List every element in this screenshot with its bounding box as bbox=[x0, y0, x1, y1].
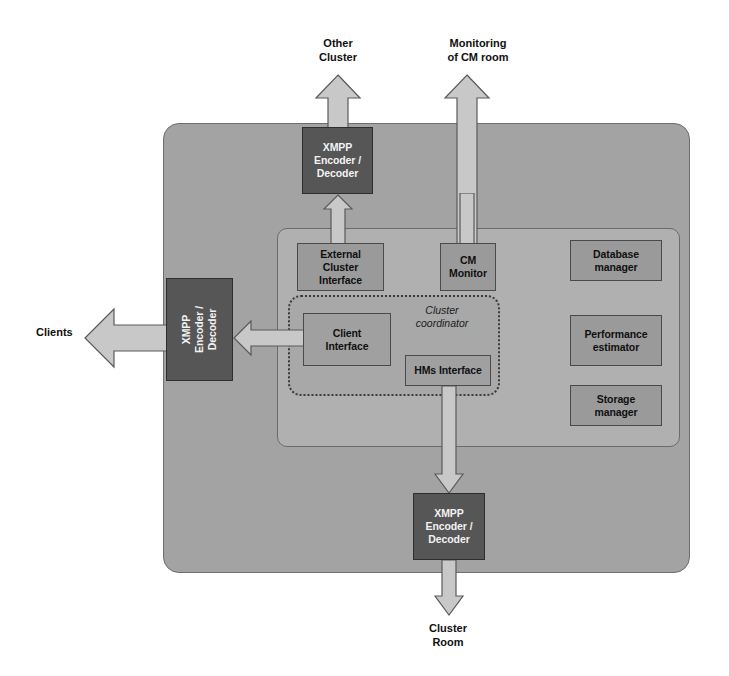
external-cluster-interface-box[interactable]: External Cluster Interface bbox=[297, 243, 384, 291]
cm-monitor-line2: Monitor bbox=[449, 267, 487, 280]
external-cluster-interface-line2: Cluster bbox=[319, 261, 362, 274]
cluster-room-label-line2: Room bbox=[400, 635, 496, 649]
other-cluster-label-line1: Other bbox=[290, 36, 386, 50]
xmpp-bottom-line2: Encoder / bbox=[426, 520, 473, 533]
database-manager-box[interactable]: Database manager bbox=[570, 240, 662, 281]
monitoring-label: Monitoring of CM room bbox=[418, 36, 538, 64]
other-cluster-label: Other Cluster bbox=[290, 36, 386, 64]
other-cluster-label-line2: Cluster bbox=[290, 50, 386, 64]
cm-monitor-box[interactable]: CM Monitor bbox=[440, 243, 496, 291]
hms-interface-down-arrow bbox=[433, 386, 465, 494]
storage-manager-line2: manager bbox=[594, 406, 637, 419]
monitoring-label-line1: Monitoring bbox=[418, 36, 538, 50]
cluster-room-down-arrow bbox=[434, 560, 464, 616]
xmpp-top-line3: Decoder bbox=[314, 167, 361, 180]
performance-estimator-line1: Performance bbox=[584, 328, 647, 341]
cluster-coordinator-label-line2: coordinator bbox=[396, 317, 488, 330]
xmpp-top-line2: Encoder / bbox=[314, 154, 361, 167]
hms-interface-box[interactable]: HMs Interface bbox=[405, 355, 491, 386]
hms-interface-label: HMs Interface bbox=[414, 364, 482, 377]
monitoring-label-line2: of CM room bbox=[418, 50, 538, 64]
xmpp-encoder-decoder-left-box[interactable]: XMPP Encoder / Decoder bbox=[166, 278, 233, 381]
cm-monitor-up-arrow bbox=[455, 193, 479, 245]
storage-manager-box[interactable]: Storage manager bbox=[570, 385, 662, 426]
client-interface-to-xmpp-arrow bbox=[233, 318, 305, 358]
other-cluster-up-arrow bbox=[314, 74, 362, 132]
performance-estimator-box[interactable]: Performance estimator bbox=[570, 315, 662, 366]
database-manager-line1: Database bbox=[593, 248, 639, 261]
cluster-coordinator-label-line1: Cluster bbox=[396, 304, 488, 317]
xmpp-left-line1: XMPP bbox=[180, 306, 193, 353]
xmpp-bottom-line1: XMPP bbox=[426, 507, 473, 520]
client-interface-box[interactable]: Client Interface bbox=[303, 313, 391, 366]
xmpp-encoder-decoder-top-box[interactable]: XMPP Encoder / Decoder bbox=[302, 127, 373, 194]
xmpp-encoder-decoder-bottom-box[interactable]: XMPP Encoder / Decoder bbox=[413, 493, 485, 560]
xmpp-top-line1: XMPP bbox=[314, 141, 361, 154]
xmpp-left-line2: Encoder / bbox=[193, 306, 206, 353]
client-interface-line1: Client bbox=[326, 327, 369, 340]
external-cluster-to-xmpp-arrow bbox=[322, 194, 354, 244]
client-interface-line2: Interface bbox=[326, 340, 369, 353]
storage-manager-line1: Storage bbox=[594, 393, 637, 406]
external-cluster-interface-line1: External bbox=[319, 248, 362, 261]
clients-label: Clients bbox=[36, 325, 92, 339]
xmpp-bottom-line3: Decoder bbox=[426, 533, 473, 546]
cluster-room-label: Cluster Room bbox=[400, 621, 496, 649]
xmpp-left-line3: Decoder bbox=[206, 306, 219, 353]
cm-monitor-line1: CM bbox=[449, 254, 487, 267]
cluster-room-label-line1: Cluster bbox=[400, 621, 496, 635]
external-cluster-interface-line3: Interface bbox=[319, 274, 362, 287]
performance-estimator-line2: estimator bbox=[584, 341, 647, 354]
database-manager-line2: manager bbox=[593, 261, 639, 274]
diagram-canvas: Cluster coordinator bbox=[0, 0, 729, 676]
cluster-coordinator-label: Cluster coordinator bbox=[396, 304, 488, 330]
clients-out-arrow bbox=[84, 307, 168, 369]
